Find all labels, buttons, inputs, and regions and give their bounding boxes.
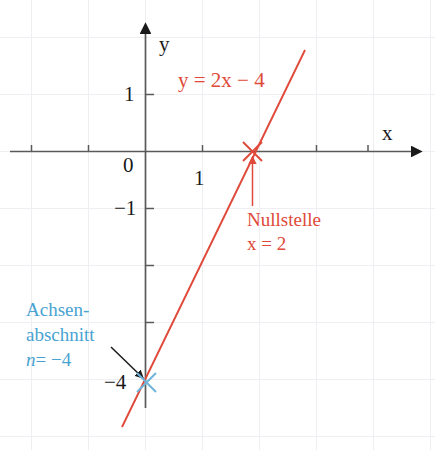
intercept-symbol: n (26, 349, 36, 370)
x-tick-label-1: 1 (194, 168, 205, 189)
intercept-annotation: Achsen- abschnitt n= −4 (26, 297, 95, 372)
zero-annotation-title: Nullstelle (247, 208, 321, 232)
y-axis (146, 33, 155, 408)
intercept-annotation-line2: abschnitt (26, 322, 95, 347)
intercept-value: = −4 (36, 349, 72, 370)
zero-annotation: Nullstelle x = 2 (247, 208, 321, 257)
y-axis-label: y (159, 34, 170, 55)
intercept-annotation-line1: Achsen- (26, 297, 95, 322)
x-axis (10, 145, 412, 152)
x-axis-ticks (32, 145, 369, 152)
x-axis-label: x (382, 123, 393, 144)
y-axis-ticks (146, 95, 155, 323)
linear-function-figure: y x 1 0 −1 −4 1 y = 2x − 4 Nullstelle x … (0, 0, 435, 450)
intercept-annotation-value: n= −4 (26, 347, 95, 372)
origin-label: 0 (123, 155, 134, 176)
y-tick-label-minus4: −4 (104, 372, 126, 393)
y-tick-label-minus1: −1 (114, 198, 136, 219)
equation-label: y = 2x − 4 (178, 70, 265, 91)
zero-annotation-value: x = 2 (247, 232, 321, 256)
y-tick-label-1: 1 (124, 84, 135, 105)
